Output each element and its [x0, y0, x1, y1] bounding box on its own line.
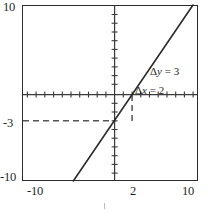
plot-graphics — [0, 0, 210, 210]
delta-y-value: = 3 — [162, 65, 179, 77]
x-tick-label-2: 2 — [130, 185, 136, 198]
y-tick-label-neg10: -10 — [0, 171, 16, 184]
data-line-series — [73, 5, 193, 181]
scan-artifact-mark — [104, 203, 105, 209]
y-tick-label-10: 10 — [3, 1, 15, 14]
y-tick-label-neg3: -3 — [3, 117, 13, 130]
delta-x-value: = 2 — [147, 84, 164, 96]
annotation-delta-x: Δx = 2 — [135, 85, 164, 96]
chart-canvas: 10 -3 -10 -10 2 10 Δy = 3 Δx = 2 — [0, 0, 210, 210]
x-tick-label-10: 10 — [182, 185, 194, 198]
annotation-delta-y: Δy = 3 — [150, 66, 179, 77]
x-tick-label-neg10: -10 — [27, 185, 43, 198]
